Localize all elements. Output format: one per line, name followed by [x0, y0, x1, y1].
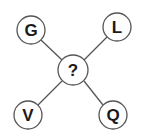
- node-bottom-right: Q: [99, 101, 127, 129]
- diagram-canvas: G L ? V Q: [0, 0, 141, 137]
- puzzle-diagram: G L ? V Q: [0, 0, 141, 137]
- node-top-left: G: [17, 16, 45, 44]
- node-label-top-right: L: [112, 18, 122, 37]
- node-top-right: L: [103, 13, 131, 41]
- node-label-top-left: G: [24, 21, 37, 40]
- connector-top-right: [84, 37, 107, 60]
- connector-top-left: [41, 40, 62, 60]
- node-label-bottom-left: V: [22, 106, 34, 125]
- node-bottom-left: V: [14, 101, 42, 129]
- connector-bottom-left: [38, 81, 62, 105]
- node-center: ?: [58, 55, 88, 85]
- node-label-bottom-right: Q: [106, 106, 119, 125]
- connector-bottom-right: [84, 81, 103, 105]
- node-label-center: ?: [68, 61, 78, 80]
